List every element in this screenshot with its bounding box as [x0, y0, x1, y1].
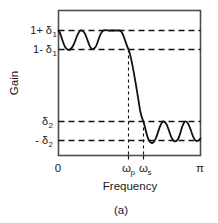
- ytick-label-upper-stopband: δ 2: [42, 115, 54, 130]
- xtick-label-pi: π: [196, 162, 204, 174]
- ytick-label-lower-passband: 1- δ 1: [33, 43, 57, 58]
- ytick-upper-stopband-main: δ: [42, 115, 48, 127]
- x-axis-title: Frequency: [103, 180, 158, 192]
- xtick-label-wp-sub: p: [131, 168, 136, 177]
- y-axis-title: Gain: [8, 71, 20, 95]
- ytick-lower-stopband-main: - δ: [35, 134, 48, 146]
- xtick-label-zero: 0: [55, 162, 61, 174]
- ytick-lower-passband-main: 1- δ: [33, 43, 52, 55]
- ytick-lower-stopband-sub: 2: [49, 140, 54, 149]
- xtick-label-ws: ω s: [139, 162, 152, 177]
- ytick-upper-passband-main: 1+ δ: [30, 24, 52, 36]
- ytick-label-lower-stopband: - δ 2: [35, 134, 53, 149]
- ytick-upper-stopband-sub: 2: [49, 121, 54, 130]
- filter-response-curve: [59, 30, 201, 143]
- figure-caption: (a): [114, 204, 128, 216]
- filter-specification-figure: 1+ δ 1 1- δ 1 δ 2 - δ 2 0 ω p ω s π Gain…: [0, 0, 218, 223]
- xtick-label-ws-sub: s: [148, 168, 152, 177]
- ytick-label-upper-passband: 1+ δ 1: [30, 24, 57, 39]
- ytick-lower-passband-sub: 1: [53, 49, 58, 58]
- ytick-upper-passband-sub: 1: [53, 30, 58, 39]
- xtick-label-wp: ω p: [122, 162, 136, 177]
